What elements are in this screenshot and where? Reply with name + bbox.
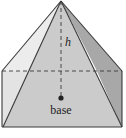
height-label: h (65, 35, 71, 49)
base-center-dot (58, 95, 63, 100)
base-label: base (50, 103, 71, 117)
pyramid-diagram: h base (0, 0, 126, 138)
